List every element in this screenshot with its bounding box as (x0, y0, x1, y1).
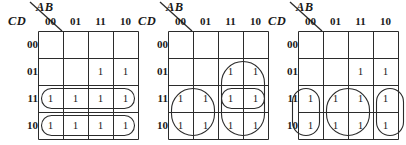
cell-one: 1 (88, 85, 113, 112)
kmap-grid: 1111111111 (38, 31, 138, 139)
cell-empty (193, 31, 218, 58)
column-header-11: 11 (88, 15, 113, 27)
cell-one: 1 (63, 85, 88, 112)
kmap-grid: 1111111111 (168, 31, 268, 139)
cell-one: 1 (348, 85, 373, 112)
kmap-1: ABCD00011110000111101111111111 (0, 0, 135, 145)
cell-one: 1 (218, 58, 243, 85)
cell-one: 1 (38, 112, 63, 139)
cell-empty (298, 58, 323, 85)
cell-empty (38, 58, 63, 85)
cell-one: 1 (323, 85, 348, 112)
row-header-00: 00 (274, 31, 298, 58)
column-header-11: 11 (218, 15, 243, 27)
row-header-00: 00 (144, 31, 168, 58)
cell-one: 1 (348, 58, 373, 85)
cell-empty (88, 31, 113, 58)
cell-one: 1 (88, 58, 113, 85)
cell-one: 1 (373, 58, 398, 85)
cell-empty (218, 31, 243, 58)
column-header-11: 11 (348, 15, 373, 27)
row-header-10: 10 (274, 112, 298, 139)
cell-one: 1 (193, 85, 218, 112)
cell-one: 1 (168, 85, 193, 112)
row-headers: 00011110 (274, 31, 298, 139)
cd-variable-label: CD (8, 14, 26, 29)
cell-one: 1 (218, 85, 243, 112)
cell-empty (323, 58, 348, 85)
row-header-11: 11 (274, 85, 298, 112)
ab-variable-label: AB (166, 0, 183, 15)
column-headers: 00011110 (38, 15, 138, 30)
ab-variable-label: AB (296, 0, 313, 15)
cell-empty (298, 31, 323, 58)
cell-empty (348, 31, 373, 58)
cell-one: 1 (298, 112, 323, 139)
cell-empty (63, 31, 88, 58)
cell-empty (373, 31, 398, 58)
column-header-00: 00 (38, 15, 63, 27)
row-headers: 00011110 (144, 31, 168, 139)
cd-variable-label: CD (268, 14, 286, 29)
cell-empty (168, 31, 193, 58)
kmap-grid: 1111111111 (298, 31, 398, 139)
cell-one: 1 (218, 112, 243, 139)
cell-one: 1 (323, 112, 348, 139)
row-header-10: 10 (14, 112, 38, 139)
cell-one: 1 (373, 85, 398, 112)
cell-one: 1 (38, 85, 63, 112)
row-header-01: 01 (274, 58, 298, 85)
row-header-01: 01 (144, 58, 168, 85)
column-header-01: 01 (63, 15, 88, 27)
cell-empty (193, 58, 218, 85)
kmap-2: ABCD00011110000111101111111111 (130, 0, 265, 145)
column-header-10: 10 (373, 15, 398, 27)
column-header-01: 01 (323, 15, 348, 27)
row-header-00: 00 (14, 31, 38, 58)
column-header-00: 00 (168, 15, 193, 27)
cell-one: 1 (348, 112, 373, 139)
row-header-10: 10 (144, 112, 168, 139)
cell-one: 1 (298, 85, 323, 112)
cell-empty (38, 31, 63, 58)
row-header-11: 11 (144, 85, 168, 112)
cell-empty (168, 58, 193, 85)
cell-one: 1 (88, 112, 113, 139)
cd-variable-label: CD (138, 14, 156, 29)
column-header-00: 00 (298, 15, 323, 27)
column-header-01: 01 (193, 15, 218, 27)
ab-variable-label: AB (36, 0, 53, 15)
cell-one: 1 (63, 112, 88, 139)
kmap-3: ABCD00011110000111101111111111 (260, 0, 395, 145)
cell-one: 1 (373, 112, 398, 139)
cell-one: 1 (168, 112, 193, 139)
row-header-11: 11 (14, 85, 38, 112)
row-header-01: 01 (14, 58, 38, 85)
row-headers: 00011110 (14, 31, 38, 139)
cell-one: 1 (193, 112, 218, 139)
cell-empty (323, 31, 348, 58)
cell-empty (63, 58, 88, 85)
column-headers: 00011110 (298, 15, 398, 30)
column-headers: 00011110 (168, 15, 268, 30)
